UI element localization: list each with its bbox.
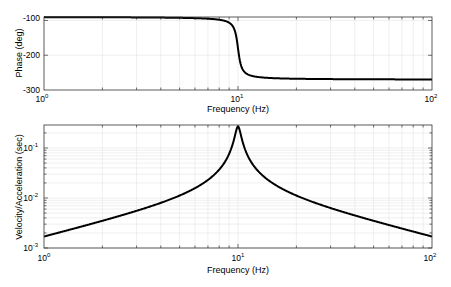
magnitude-xtick-label: 100 [38,252,51,263]
magnitude-xtick-label: 102 [424,252,437,263]
magnitude-ytick-label: 10-2 [23,192,38,203]
phase-ylabel: Phase (deg) [14,28,24,77]
velocity-acceleration-plot: 10-1 10-2 10-3 100 101 102 Frequency (Hz… [14,125,437,275]
phase-xtick-label: 101 [231,93,244,104]
phase-ytick-label: -100 [23,13,40,23]
magnitude-ylabel: Velocity/Acceleration (sec) [14,134,24,240]
phase-xtick-label: 102 [425,93,438,104]
magnitude-ytick-label: 10-1 [23,142,38,153]
figure: -100 -200 -300 100 101 102 Frequency (Hz… [0,0,451,287]
phase-xlabel: Frequency (Hz) [207,104,269,114]
magnitude-grid [44,125,432,248]
phase-xtick-label: 100 [36,93,49,104]
magnitude-xtick-label: 101 [232,252,245,263]
phase-ytick-label: -200 [23,50,40,60]
phase-plot: -100 -200 -300 100 101 102 Frequency (Hz… [14,13,438,114]
magnitude-xlabel: Frequency (Hz) [207,265,269,275]
magnitude-ytick-label: 10-3 [23,242,38,253]
